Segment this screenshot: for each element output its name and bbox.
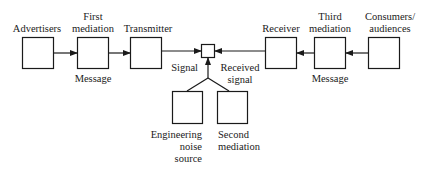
received-signal-label-line2: signal — [215, 74, 265, 85]
advertisers-label: Advertisers — [2, 23, 72, 34]
received-signal-label-line1: Received — [215, 62, 265, 73]
message-right-label: Message — [305, 73, 355, 84]
second-mediation-label-line1: Second — [218, 129, 278, 140]
receiver-box — [266, 38, 297, 69]
communication-model-diagram: Advertisers First mediation Transmitter … — [0, 0, 425, 173]
line-noise-source-branch — [187, 78, 208, 91]
noise-source-label-line3: source — [140, 153, 202, 164]
noise-source-label-line2: noise — [140, 141, 202, 152]
junction-box — [202, 45, 215, 58]
third-mediation-label-line2: mediation — [300, 23, 360, 34]
second-mediation-label-line2: mediation — [218, 141, 278, 152]
consumers-label-line2: audiences — [355, 23, 425, 34]
message-left-label: Message — [68, 73, 118, 84]
first-mediation-label-line1: First — [68, 11, 118, 22]
transmitter-label: Transmitter — [116, 23, 180, 34]
signal-label: Signal — [150, 62, 198, 73]
third-mediation-label-line1: Third — [305, 11, 355, 22]
noise-source-label-line1: Engineering — [140, 129, 202, 140]
third-mediation-box — [315, 38, 346, 69]
advertisers-box — [23, 38, 54, 69]
first-mediation-box — [78, 38, 109, 69]
first-mediation-label-line2: mediation — [63, 23, 123, 34]
noise-source-box — [173, 92, 203, 124]
consumers-label-line1: Consumers/ — [355, 11, 425, 22]
second-mediation-box — [218, 92, 248, 124]
consumers-box — [369, 38, 400, 69]
